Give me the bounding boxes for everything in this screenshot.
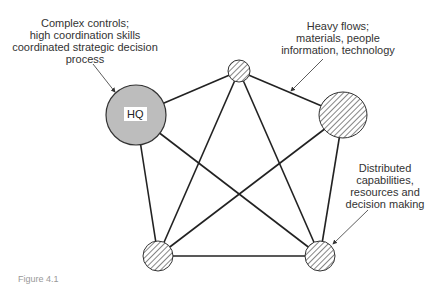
annotation-line: Heavy flows; bbox=[278, 20, 398, 32]
arrow-distributed bbox=[333, 210, 368, 244]
annotation-line: capabilities, bbox=[340, 174, 430, 186]
annotation-line: Distributed bbox=[340, 162, 430, 174]
node-right bbox=[319, 92, 367, 138]
network-diagram: Complex controls; high coordination skil… bbox=[0, 0, 430, 284]
annotation-distributed: Distributed capabilities, resources and … bbox=[340, 162, 430, 210]
annotation-line: information, technology bbox=[278, 44, 398, 56]
figure-caption: Figure 4.1 bbox=[18, 274, 59, 284]
annotation-line: materials, people bbox=[278, 32, 398, 44]
hq-label: HQ bbox=[124, 107, 147, 121]
edge-top-bottomleft bbox=[158, 71, 239, 256]
arrow-flows bbox=[291, 59, 323, 91]
annotation-hq: Complex controls; high coordination skil… bbox=[10, 17, 160, 65]
annotation-line: coordinated strategic decision bbox=[10, 41, 160, 53]
node-bottom-left bbox=[143, 241, 173, 271]
annotation-line: high coordination skills bbox=[10, 29, 160, 41]
annotation-line: Complex controls; bbox=[10, 17, 160, 29]
node-bottom-right bbox=[305, 241, 335, 271]
annotation-flows: Heavy flows; materials, people informati… bbox=[278, 20, 398, 56]
node-top bbox=[228, 60, 250, 82]
edges bbox=[136, 71, 343, 256]
edge-hq-bottomright bbox=[136, 115, 320, 256]
edge-right-bottomleft bbox=[158, 115, 343, 256]
annotation-line: process bbox=[10, 53, 160, 65]
annotation-line: decision making bbox=[340, 198, 430, 210]
annotation-line: resources and bbox=[340, 186, 430, 198]
arrow-hq bbox=[93, 64, 115, 92]
